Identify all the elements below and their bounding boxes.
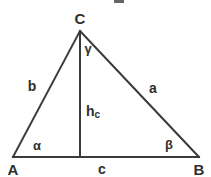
triangle-side-b-line	[13, 31, 80, 157]
angle-label-beta: β	[165, 138, 173, 151]
side-label-b: b	[28, 79, 37, 93]
altitude-label-base: h	[86, 103, 95, 119]
triangle-diagram: C A B b a c α β γ hc	[0, 0, 211, 177]
top-edge-artifact	[114, 0, 124, 3]
vertex-label-a: A	[8, 162, 19, 177]
angle-label-alpha: α	[33, 139, 41, 152]
vertex-label-b: B	[194, 162, 205, 177]
side-label-c: c	[98, 162, 106, 176]
triangle-side-a-line	[80, 31, 199, 157]
altitude-label: hc	[86, 104, 100, 121]
angle-label-gamma: γ	[84, 42, 91, 55]
vertex-label-c: C	[75, 11, 86, 26]
altitude-label-subscript: c	[95, 109, 101, 120]
side-label-a: a	[149, 81, 157, 95]
